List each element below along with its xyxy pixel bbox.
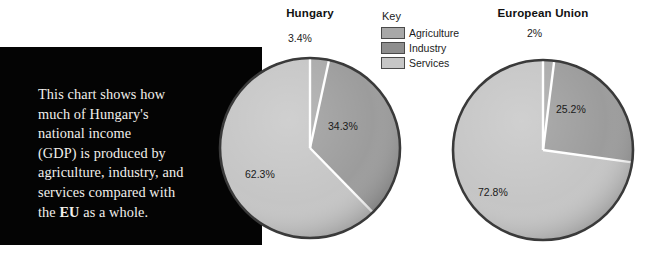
caption-line-7-prefix: the xyxy=(38,204,59,220)
pie-label-eu-agriculture: 2% xyxy=(527,27,542,39)
pie-label-eu-services: 72.8% xyxy=(478,186,508,198)
pie-chart-european-union-svg xyxy=(450,57,636,243)
legend-swatch-industry xyxy=(381,42,405,54)
pie-chart-hungary-svg xyxy=(217,55,403,241)
chart-title-european-union: European Union xyxy=(478,7,608,19)
caption-line-5: agriculture, industry, and xyxy=(38,164,183,180)
caption-line-7-emphasis: EU xyxy=(59,204,79,220)
gdp-pie-chart-figure: This chart shows how much of Hungary's n… xyxy=(0,0,662,261)
legend-item-agriculture: Agriculture xyxy=(381,26,473,40)
legend-item-industry: Industry xyxy=(381,41,473,55)
legend-swatch-agriculture xyxy=(381,27,405,39)
caption-line-3: national income xyxy=(38,125,131,141)
legend-title: Key xyxy=(382,10,473,22)
caption-line-4: (GDP) is produced by xyxy=(38,145,166,161)
caption-line-2: much of Hungary's xyxy=(38,106,149,122)
pie-label-hungary-services: 62.3% xyxy=(245,168,275,180)
pie-chart-european-union xyxy=(450,57,636,243)
legend-label-agriculture: Agriculture xyxy=(409,27,459,39)
caption-line-6: services compared with xyxy=(38,184,175,200)
pie-label-hungary-agriculture: 3.4% xyxy=(288,32,312,44)
pie-chart-hungary xyxy=(217,55,403,241)
legend-swatch-services xyxy=(381,57,405,69)
caption-line-1: This chart shows how xyxy=(38,86,165,102)
pie-label-hungary-industry: 34.3% xyxy=(328,120,358,132)
legend-label-industry: Industry xyxy=(409,42,446,54)
pie-label-eu-industry: 25.2% xyxy=(556,103,586,115)
caption-text: This chart shows how much of Hungary's n… xyxy=(38,85,246,222)
chart-title-hungary: Hungary xyxy=(245,7,375,19)
caption-line-7-suffix: as a whole. xyxy=(80,204,149,220)
legend-label-services: Services xyxy=(409,57,449,69)
